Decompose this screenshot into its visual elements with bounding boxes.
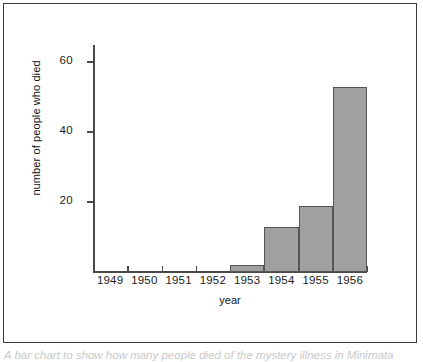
x-tick-mark [162, 266, 163, 272]
x-tick-mark [196, 266, 197, 272]
x-tick-mark [93, 266, 94, 272]
x-axis-title: year [93, 294, 367, 306]
bar-1956 [333, 87, 367, 273]
y-tick-mark [87, 131, 94, 132]
bar-1954 [264, 227, 298, 273]
x-tick-mark [367, 266, 368, 272]
figure-frame: 204060 19491950195119521953195419551956 … [3, 3, 417, 343]
figure-caption: A bar chart to show how many people died… [4, 349, 419, 361]
bar-1955 [299, 206, 333, 273]
x-tick-mark [127, 266, 128, 272]
chart-plot-area: 204060 19491950195119521953195419551956 … [4, 4, 418, 344]
y-tick-mark [87, 201, 94, 202]
y-axis-line [93, 45, 95, 273]
x-tick-label: 1956 [330, 274, 370, 286]
y-axis-title: number of people who died [30, 48, 42, 208]
bar-1953 [230, 265, 264, 272]
y-tick-mark [87, 61, 94, 62]
